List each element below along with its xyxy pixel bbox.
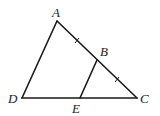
segment-be [80, 60, 97, 98]
side-ad [22, 21, 57, 98]
triangle-diagram: A B C D E [0, 0, 160, 116]
point-label-a: A [51, 5, 60, 20]
point-label-d: D [7, 91, 18, 106]
diagram-canvas: A B C D E [0, 0, 160, 116]
point-label-c: C [140, 91, 149, 106]
point-label-e: E [71, 101, 80, 116]
point-label-b: B [100, 44, 108, 59]
